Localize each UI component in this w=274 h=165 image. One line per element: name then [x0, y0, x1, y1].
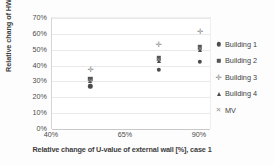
- scatter-chart: Relative chang of HWB [%] 0%10%20%30%40%…: [0, 0, 274, 165]
- x-tick-label: 65%: [118, 130, 132, 139]
- legend-item-building-2[interactable]: Building 2: [214, 53, 274, 70]
- legend-item-building-3[interactable]: ✛Building 3: [214, 69, 274, 86]
- cross-icon: ✕: [214, 106, 223, 115]
- y-tick-label: 70%: [23, 13, 47, 22]
- legend-item-label: Building 4: [225, 89, 257, 98]
- legend-item-label: Building 3: [225, 73, 257, 82]
- triangle-icon: [214, 89, 223, 98]
- y-axis-title: Relative chang of HWB [%]: [4, 0, 13, 83]
- legend-item-label: Building 1: [225, 40, 257, 49]
- gridline: [52, 34, 210, 35]
- x-axis-title: Relative change of U-value of external w…: [18, 145, 226, 154]
- y-axis-tick-labels: 0%10%20%30%40%50%60%70%: [23, 14, 47, 128]
- y-tick-label: 40%: [23, 60, 47, 69]
- legend-item-label: MV: [225, 106, 236, 115]
- data-point: [156, 67, 160, 71]
- data-point: [88, 84, 92, 88]
- x-axis-tick-labels: 40%65%90%: [51, 130, 209, 142]
- gridline: [52, 66, 210, 67]
- filled-circle-icon: [214, 40, 223, 49]
- data-point: ✕: [197, 46, 203, 52]
- gridline: [52, 113, 210, 114]
- y-tick-label: 50%: [23, 44, 47, 53]
- y-tick-label: 10%: [23, 108, 47, 117]
- gridline: [52, 81, 210, 82]
- gridline: [52, 18, 210, 19]
- y-tick-label: 30%: [23, 76, 47, 85]
- data-point: ✕: [156, 57, 162, 63]
- x-tick-label: 90%: [192, 130, 206, 139]
- y-tick-label: 60%: [23, 28, 47, 37]
- data-point: ✛: [156, 41, 162, 47]
- x-tick-label: 40%: [44, 130, 58, 139]
- plot-area: ✛✛✛✕✕✕: [51, 17, 211, 129]
- data-point: ✛: [87, 66, 93, 72]
- y-tick-label: 20%: [23, 92, 47, 101]
- data-point: ✛: [197, 28, 203, 34]
- chart-legend: Building 1Building 2✛Building 3Building …: [214, 36, 274, 119]
- legend-item-label: Building 2: [225, 56, 257, 65]
- plus-icon: ✛: [214, 73, 223, 82]
- legend-item-building-4[interactable]: Building 4: [214, 86, 274, 103]
- legend-item-mv[interactable]: ✕MV: [214, 102, 274, 119]
- data-point: ✕: [87, 78, 93, 84]
- legend-item-building-1[interactable]: Building 1: [214, 36, 274, 53]
- data-point: [198, 59, 202, 63]
- gridline: [52, 50, 210, 51]
- gridline: [52, 97, 210, 98]
- filled-square-icon: [214, 56, 223, 65]
